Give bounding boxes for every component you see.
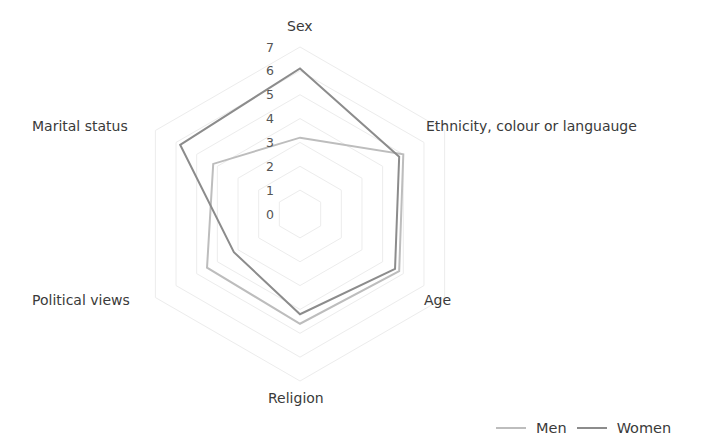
series-line-women: [180, 68, 399, 314]
chart-legend: Men Women: [496, 420, 681, 436]
axis-label-age: Age: [424, 292, 451, 308]
series-line-men: [207, 138, 403, 324]
axis-label-ethnicity: Ethnicity, colour or languauge: [426, 118, 637, 134]
legend-item-women: Women: [577, 420, 672, 436]
legend-item-men: Men: [496, 420, 567, 436]
gridline-ring: [197, 95, 404, 334]
legend-swatch-men: [496, 427, 526, 429]
legend-label-men: Men: [536, 420, 567, 436]
radial-tick-4: 4: [254, 111, 274, 126]
axis-label-political-views: Political views: [32, 292, 130, 308]
axis-label-religion: Religion: [268, 390, 324, 406]
radial-tick-7: 7: [254, 40, 274, 55]
legend-swatch-women: [577, 427, 607, 429]
radial-tick-0: 0: [254, 207, 274, 222]
radial-tick-5: 5: [254, 87, 274, 102]
radial-tick-1: 1: [254, 183, 274, 198]
radial-tick-3: 3: [254, 135, 274, 150]
radial-tick-2: 2: [254, 159, 274, 174]
radial-tick-6: 6: [254, 63, 274, 78]
axis-label-marital-status: Marital status: [32, 118, 128, 134]
legend-label-women: Women: [617, 420, 672, 436]
gridline-ring: [279, 190, 320, 238]
radar-chart: [0, 0, 702, 439]
axis-label-sex: Sex: [287, 18, 313, 34]
radar-series: [180, 68, 403, 323]
